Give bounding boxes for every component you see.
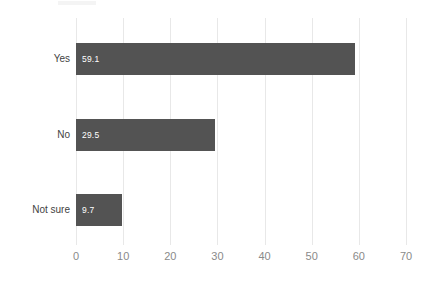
x-tick-label: 0 [73,250,79,262]
x-tick-label: 30 [211,250,223,262]
x-tick-label: 40 [258,250,270,262]
bar-chart: 59.129.59.7 YesNoNot sure 01020304050607… [0,0,431,287]
category-axis-labels: YesNoNot sure [0,18,70,245]
x-tick-label: 50 [306,250,318,262]
category-label: No [0,119,70,151]
category-label: Not sure [0,194,70,226]
bar-value-label: 29.5 [82,119,99,151]
x-tick-label: 10 [117,250,129,262]
bar-row: 9.7 [76,194,406,226]
value-axis-labels: 010203040506070 [76,250,406,270]
bar-row: 59.1 [76,43,406,75]
x-tick-label: 20 [164,250,176,262]
plot-area: 59.129.59.7 [76,18,406,245]
bar-value-label: 59.1 [82,43,99,75]
bar [76,43,355,75]
category-label: Yes [0,43,70,75]
x-tick-label: 60 [353,250,365,262]
bar-value-label: 9.7 [82,194,94,226]
cropped-title-artifact [58,1,96,5]
bar-row: 29.5 [76,119,406,151]
x-tick-label: 70 [400,250,412,262]
gridline-70 [406,18,407,245]
